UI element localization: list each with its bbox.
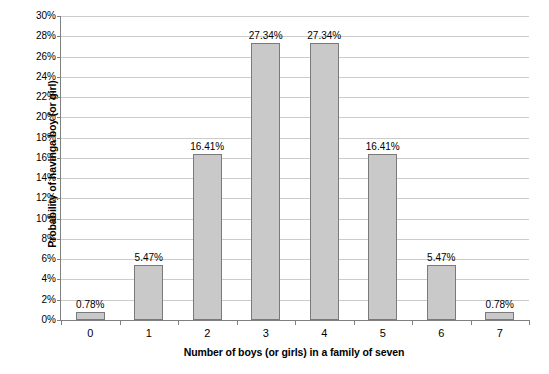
bar-value-label: 5.47% [135, 253, 163, 263]
x-axis-tickmark [178, 320, 179, 325]
y-axis-tick-label: 24% [0, 72, 56, 82]
bar-slot: 5.47% [120, 16, 179, 320]
x-axis-tickmark [120, 320, 121, 325]
bar-slot: 5.47% [412, 16, 471, 320]
bar[interactable]: 16.41% [193, 154, 222, 320]
y-axis-tick-label: 2% [0, 295, 56, 305]
bar-value-label: 27.34% [249, 31, 283, 41]
x-axis-tickmarks [61, 320, 529, 326]
x-axis-tick-label: 3 [237, 328, 296, 339]
x-axis-tickmark [471, 320, 472, 325]
bar[interactable]: 5.47% [427, 265, 456, 320]
bar[interactable]: 27.34% [251, 43, 280, 320]
x-axis-tickmark [237, 320, 238, 325]
bar-slot: 16.41% [354, 16, 413, 320]
bar-value-label: 0.78% [486, 300, 514, 310]
x-axis-tickmark [354, 320, 355, 325]
bar-value-label: 16.41% [366, 142, 400, 152]
y-axis-tick-label: 12% [0, 193, 56, 203]
plot-area: 0%2%4%6%8%10%12%14%16%18%20%22%24%26%28%… [60, 16, 529, 321]
x-axis-tick-labels: 01234567 [61, 328, 529, 339]
bar[interactable]: 16.41% [368, 154, 397, 320]
x-axis-tick-label: 0 [61, 328, 120, 339]
bar[interactable]: 5.47% [134, 265, 163, 320]
bar[interactable]: 27.34% [310, 43, 339, 320]
bar-slot: 0.78% [61, 16, 120, 320]
y-axis-tick-label: 10% [0, 214, 56, 224]
x-axis-tick-label: 4 [295, 328, 354, 339]
bar-value-label: 16.41% [190, 142, 224, 152]
x-axis-tickmark [61, 320, 62, 325]
bar-series: 0.78%5.47%16.41%27.34%27.34%16.41%5.47%0… [61, 16, 529, 320]
x-axis-tickmark [412, 320, 413, 325]
bar-value-label: 5.47% [427, 253, 455, 263]
bar-slot: 27.34% [295, 16, 354, 320]
y-axis-tick-label: 20% [0, 112, 56, 122]
probability-bar-chart: Probability of havinga boy (or girl) 0%2… [0, 0, 549, 374]
bar[interactable]: 0.78% [76, 312, 105, 320]
x-axis-tickmark [295, 320, 296, 325]
x-axis-title: Number of boys (or girls) in a family of… [60, 346, 528, 358]
x-axis-tick-label: 2 [178, 328, 237, 339]
y-axis-tick-label: 16% [0, 153, 56, 163]
x-axis-tick-label: 1 [120, 328, 179, 339]
y-axis-tick-label: 4% [0, 274, 56, 284]
x-axis-tick-label: 5 [354, 328, 413, 339]
y-axis-tick-label: 0% [0, 315, 56, 325]
bar-slot: 27.34% [237, 16, 296, 320]
bar[interactable]: 0.78% [485, 312, 514, 320]
x-axis-tickmark [529, 320, 530, 325]
y-axis-tick-label: 28% [0, 31, 56, 41]
x-axis-tick-label: 7 [471, 328, 530, 339]
y-axis-tick-label: 6% [0, 254, 56, 264]
bar-slot: 16.41% [178, 16, 237, 320]
bar-slot: 0.78% [471, 16, 530, 320]
bar-value-label: 0.78% [76, 300, 104, 310]
y-axis-tick-label: 26% [0, 52, 56, 62]
x-axis-tick-label: 6 [412, 328, 471, 339]
y-axis-tick-label: 8% [0, 234, 56, 244]
bar-value-label: 27.34% [307, 31, 341, 41]
y-axis-tick-label: 18% [0, 133, 56, 143]
y-axis-tick-label: 30% [0, 11, 56, 21]
y-axis-tick-label: 22% [0, 92, 56, 102]
y-axis-tick-label: 14% [0, 173, 56, 183]
